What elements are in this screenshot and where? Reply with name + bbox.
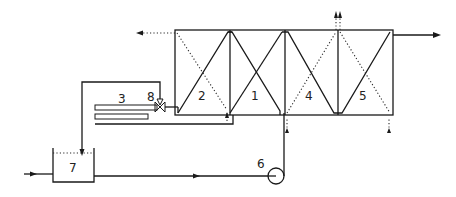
- dotted-outlet-top: [334, 11, 342, 30]
- process-flow-diagram: 2 1 4 5 3 8 7 6: [0, 0, 456, 197]
- solid-outlet-right: [393, 32, 441, 38]
- label-stage-5: 5: [359, 89, 367, 103]
- feed-inlet-arrow: [24, 172, 53, 177]
- tank-to-pump-line: [94, 174, 268, 179]
- label-component-3: 3: [118, 92, 126, 106]
- label-tank-7: 7: [69, 161, 77, 175]
- dotted-outlet-left: [136, 31, 175, 36]
- label-valve-8: 8: [147, 90, 155, 104]
- pump-6: [268, 168, 284, 184]
- label-stage-1: 1: [251, 89, 259, 103]
- label-stage-4: 4: [305, 89, 313, 103]
- label-stage-2: 2: [198, 89, 206, 103]
- component-3-tube-bundle: [95, 105, 157, 119]
- label-pump-6: 6: [257, 157, 265, 171]
